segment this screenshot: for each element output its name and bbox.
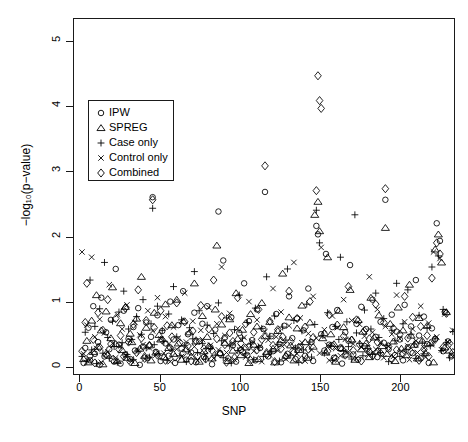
data-point — [262, 162, 269, 170]
data-point — [311, 211, 319, 217]
data-point — [382, 185, 389, 193]
data-point — [89, 255, 94, 260]
data-point — [214, 335, 221, 343]
data-point — [429, 274, 436, 282]
data-point — [428, 264, 435, 271]
data-point — [389, 312, 395, 318]
data-point — [190, 318, 195, 323]
data-point — [339, 361, 345, 367]
legend-item-ipw: IPW — [94, 105, 173, 120]
legend-item-case-only: Case only — [94, 135, 173, 150]
data-point — [399, 327, 407, 333]
data-point — [284, 266, 291, 273]
data-point — [402, 302, 408, 308]
data-point — [375, 312, 383, 318]
data-point — [82, 329, 89, 336]
data-point — [306, 286, 312, 292]
scatter-plot-figure: −log₁₀(p−value) SNP IPWSPREGCase onlyCon… — [0, 0, 468, 442]
data-point — [254, 317, 259, 322]
data-point — [157, 307, 164, 315]
data-point — [176, 322, 182, 328]
data-point — [214, 321, 219, 326]
x-tick-label: 100 — [220, 381, 260, 393]
triangle-icon — [94, 121, 109, 134]
y-tick-mark — [66, 367, 73, 368]
data-point — [383, 197, 389, 203]
legend-item-label: Case only — [109, 136, 158, 149]
data-point — [126, 330, 134, 336]
data-point — [84, 279, 91, 287]
y-tick-label: 2 — [50, 225, 62, 245]
data-point — [216, 209, 222, 215]
data-points-layer — [74, 19, 455, 375]
y-tick-mark — [66, 302, 73, 303]
data-point — [218, 313, 225, 321]
y-tick-label: 5 — [50, 29, 62, 49]
data-point — [270, 286, 275, 291]
legend-item-control-only: Control only — [94, 150, 173, 165]
data-point — [213, 242, 221, 248]
data-point — [285, 314, 293, 320]
x-tick-label: 50 — [140, 381, 180, 393]
data-point — [373, 347, 378, 352]
data-point — [418, 303, 423, 308]
data-point — [401, 292, 408, 300]
data-point — [316, 97, 323, 105]
data-point — [314, 198, 322, 204]
data-point — [351, 211, 358, 218]
data-point — [119, 326, 124, 331]
data-point — [120, 288, 127, 295]
y-tick-mark — [66, 171, 73, 172]
x-tick-label: 0 — [59, 381, 99, 393]
x-axis-label: SNP — [0, 404, 468, 418]
y-tick-mark — [66, 237, 73, 238]
data-point — [155, 295, 160, 300]
data-point — [219, 264, 224, 269]
data-point — [113, 266, 119, 272]
data-point — [135, 286, 142, 294]
data-point — [137, 362, 143, 368]
data-point — [279, 270, 287, 276]
data-point — [394, 292, 399, 297]
data-point — [347, 262, 353, 268]
data-point — [278, 309, 283, 314]
data-point — [417, 322, 424, 330]
data-point — [200, 321, 206, 327]
data-point — [434, 231, 442, 237]
data-point — [293, 325, 301, 331]
plus-icon — [94, 136, 109, 149]
diamond-icon — [94, 166, 109, 179]
data-point — [381, 225, 389, 231]
data-point — [263, 273, 270, 280]
data-point — [449, 348, 455, 356]
data-point — [206, 325, 213, 333]
data-point — [318, 104, 325, 112]
data-point — [258, 300, 266, 306]
data-point — [250, 328, 257, 336]
data-point — [258, 335, 265, 343]
data-point — [291, 260, 296, 265]
data-point — [91, 323, 98, 330]
plot-area — [73, 18, 455, 375]
data-point — [190, 280, 198, 286]
data-point — [170, 283, 177, 290]
data-point — [405, 281, 413, 287]
data-point — [302, 323, 309, 331]
data-point — [429, 359, 437, 365]
y-tick-label: 4 — [50, 94, 62, 114]
data-point — [191, 268, 198, 275]
data-point — [416, 333, 422, 339]
data-point — [318, 245, 323, 250]
data-point — [154, 303, 161, 310]
data-point — [247, 311, 255, 317]
data-point — [367, 274, 372, 279]
legend-item-spreg: SPREG — [94, 120, 173, 135]
data-point — [168, 299, 174, 305]
data-point — [209, 361, 215, 367]
data-point — [83, 337, 91, 343]
y-tick-label: 3 — [50, 159, 62, 179]
data-point — [140, 296, 147, 303]
data-point — [135, 305, 141, 311]
data-point — [161, 350, 166, 355]
data-point — [102, 308, 110, 314]
